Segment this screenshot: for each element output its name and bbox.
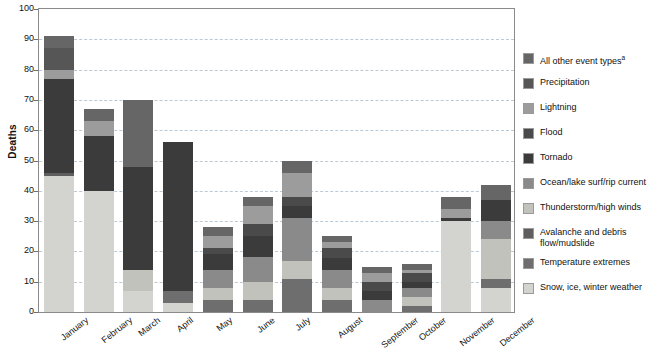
legend-swatch (523, 203, 534, 214)
bar-segment[interactable] (481, 288, 511, 312)
bar-segment[interactable] (322, 270, 352, 288)
y-tick-label: 0 (4, 307, 34, 316)
bar-column[interactable] (84, 7, 114, 312)
bar-stack (163, 142, 193, 312)
bar-segment[interactable] (282, 279, 312, 312)
bar-column[interactable] (163, 7, 193, 312)
bar-segment[interactable] (481, 200, 511, 221)
x-tick-label: January (59, 315, 90, 343)
bar-segment[interactable] (44, 48, 74, 69)
y-tick-label: 30 (4, 216, 34, 225)
bar-segment[interactable] (402, 273, 432, 282)
bar-column[interactable] (481, 7, 511, 312)
bar-segment[interactable] (243, 224, 273, 236)
bar-segment[interactable] (203, 300, 233, 312)
bar-stack (84, 109, 114, 312)
bar-column[interactable] (362, 7, 392, 312)
legend-item[interactable]: Tornado (523, 152, 573, 164)
bar-segment[interactable] (322, 258, 352, 270)
legend-label: Flood (540, 127, 563, 138)
x-tick-label: October (416, 315, 447, 343)
bar-segment[interactable] (203, 227, 233, 236)
bar-column[interactable] (322, 7, 352, 312)
bar-segment[interactable] (123, 270, 153, 291)
bar-segment[interactable] (402, 288, 432, 297)
bar-column[interactable] (123, 7, 153, 312)
bar-segment[interactable] (402, 297, 432, 306)
bar-segment[interactable] (163, 291, 193, 303)
bar-segment[interactable] (481, 279, 511, 288)
bar-segment[interactable] (123, 291, 153, 312)
bar-segment[interactable] (243, 197, 273, 206)
bar-segment[interactable] (402, 306, 432, 312)
bar-segment[interactable] (243, 206, 273, 224)
bar-segment[interactable] (362, 300, 392, 312)
bar-segment[interactable] (84, 191, 114, 312)
bar-segment[interactable] (481, 221, 511, 239)
x-tick-label: August (336, 315, 364, 340)
legend-item[interactable]: Avalanche and debris flow/mudslide (523, 227, 626, 249)
bar-segment[interactable] (362, 273, 392, 282)
bar-segment[interactable] (203, 236, 233, 248)
legend-item[interactable]: Ocean/lake surf/rip current (523, 177, 646, 189)
bar-segment[interactable] (441, 197, 471, 209)
legend-swatch (523, 258, 534, 269)
legend-label: Temperature extremes (540, 257, 630, 268)
bar-segment[interactable] (44, 70, 74, 79)
x-axis-labels: JanuaryFebruaryMarchAprilMayJuneJulyAugu… (38, 313, 515, 358)
bar-segment[interactable] (163, 303, 193, 312)
legend-item[interactable]: All other event typesa (523, 52, 625, 67)
legend-item[interactable]: Lightning (523, 102, 577, 114)
bar-segment[interactable] (203, 288, 233, 300)
bar-segment[interactable] (84, 109, 114, 121)
bar-segment[interactable] (163, 142, 193, 290)
legend-footnote-marker: a (622, 54, 626, 61)
legend-item[interactable]: Thunderstorm/high winds (523, 202, 641, 214)
legend-swatch (523, 178, 534, 189)
x-tick-label: February (99, 315, 134, 345)
bar-segment[interactable] (243, 236, 273, 257)
bar-segment[interactable] (123, 100, 153, 167)
bar-column[interactable] (243, 7, 273, 312)
bar-segment[interactable] (282, 206, 312, 218)
bar-segment[interactable] (282, 161, 312, 173)
bar-column[interactable] (44, 7, 74, 312)
bar-segment[interactable] (322, 288, 352, 300)
bar-segment[interactable] (282, 197, 312, 206)
bar-segment[interactable] (44, 79, 74, 173)
x-tick-label: April (175, 315, 195, 334)
y-tick-label: 10 (4, 277, 34, 286)
bar-stack (402, 264, 432, 312)
bar-segment[interactable] (84, 136, 114, 191)
bar-segment[interactable] (322, 248, 352, 257)
bar-segment[interactable] (282, 173, 312, 197)
legend-item[interactable]: Snow, ice, winter weather (523, 282, 642, 294)
legend-item[interactable]: Temperature extremes (523, 257, 630, 269)
bar-segment[interactable] (441, 209, 471, 218)
legend-item[interactable]: Flood (523, 127, 563, 139)
bar-segment[interactable] (322, 300, 352, 312)
bar-segment[interactable] (44, 176, 74, 312)
bar-segment[interactable] (441, 221, 471, 312)
bar-column[interactable] (282, 7, 312, 312)
bar-segment[interactable] (243, 257, 273, 281)
bar-segment[interactable] (362, 291, 392, 300)
legend-item[interactable]: Precipitation (523, 77, 590, 89)
bar-segment[interactable] (282, 261, 312, 279)
bar-column[interactable] (402, 7, 432, 312)
bar-segment[interactable] (203, 254, 233, 269)
bar-column[interactable] (203, 7, 233, 312)
bar-segment[interactable] (123, 167, 153, 270)
bar-segment[interactable] (243, 282, 273, 300)
bar-segment[interactable] (362, 282, 392, 291)
bar-segment[interactable] (243, 300, 273, 312)
bar-segment[interactable] (481, 239, 511, 278)
bar-column[interactable] (441, 7, 471, 312)
bar-segment[interactable] (282, 218, 312, 260)
y-tick-label: 50 (4, 156, 34, 165)
bar-segment[interactable] (84, 121, 114, 136)
bar-segment[interactable] (481, 185, 511, 200)
bar-segment[interactable] (203, 270, 233, 288)
bar-segment[interactable] (44, 36, 74, 48)
legend-swatch (523, 283, 534, 294)
